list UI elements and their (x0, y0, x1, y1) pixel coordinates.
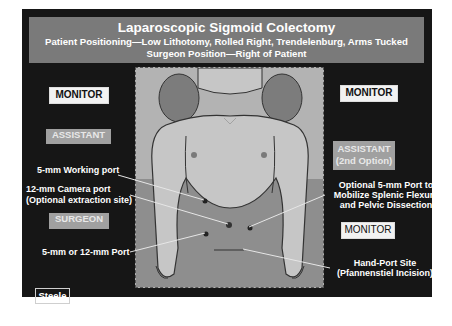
assistant-2nd-option-label: ASSISTANT (2nd Option) (333, 141, 395, 170)
camera-port-dot (226, 222, 232, 228)
port-5-12-label: 5-mm or 12-mm Port (42, 247, 130, 258)
optional-port-label: Optional 5-mm Port to Mobilize Splenic F… (326, 180, 446, 210)
patient-illustration-panel (135, 67, 324, 288)
hand-port-label: Hand-Port Site (Pfannenstiel Incision) (330, 258, 440, 278)
surgeon-position: Surgeon Position—Right of Patient (29, 48, 424, 60)
title-banner: Laparoscopic Sigmoid Colectomy Patient P… (29, 17, 424, 63)
port-5-12-dot (204, 232, 209, 237)
monitor-left-label: MONITOR (49, 87, 109, 104)
assistant-label: ASSISTANT (46, 129, 111, 144)
monitor-right-bottom-label: MONITOR (341, 222, 395, 239)
optional-port-dot (248, 226, 253, 231)
credit-steele: Steele (35, 288, 70, 304)
surgeon-label: SURGEON (49, 213, 109, 229)
working-port-label: 5-mm Working port (37, 165, 119, 176)
monitor-right-top-label: MONITOR (340, 85, 398, 102)
diagram-title: Laparoscopic Sigmoid Colectomy (29, 19, 424, 36)
working-port-dot (203, 199, 208, 204)
patient-body-illustration (136, 68, 324, 288)
patient-positioning: Patient Positioning—Low Lithotomy, Rolle… (29, 36, 424, 48)
camera-port-label: 12-mm Camera port (Optional extraction s… (26, 184, 132, 206)
